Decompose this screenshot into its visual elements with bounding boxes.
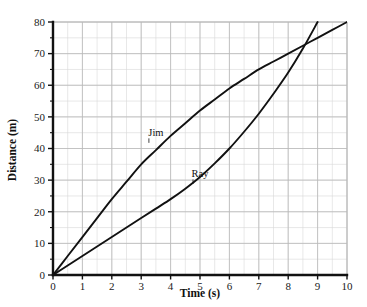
x-tick-label: 8 [285,280,291,292]
y-tick-label: 80 [34,16,46,28]
x-tick-label: 0 [50,280,56,292]
y-tick-label: 40 [34,142,46,154]
x-tick-label: 3 [138,280,144,292]
y-tick-label: 30 [34,174,46,186]
x-tick-label: 4 [168,280,174,292]
y-tick-label: 10 [34,237,46,249]
y-tick-label: 20 [34,206,46,218]
series-label-jim: Jim [148,127,163,138]
x-tick-label: 7 [256,280,262,292]
figure-container: 012345678910 01020304050607080 JimRay Ti… [0,0,367,307]
x-tick-label: 6 [227,280,233,292]
y-tick-label: 60 [34,79,46,91]
series-label-ray: Ray [192,168,210,179]
x-tick-label: 9 [315,280,321,292]
x-tick-label: 2 [109,280,115,292]
distance-time-chart: 012345678910 01020304050607080 JimRay Ti… [0,0,367,307]
x-axis-title: Time (s) [180,287,221,300]
y-tick-labels: 01020304050607080 [34,16,46,281]
y-axis-title: Distance (m) [6,119,19,181]
y-tick-label: 70 [34,47,46,59]
y-tick-label: 0 [40,269,46,281]
y-tick-label: 50 [34,111,46,123]
x-tick-label: 10 [342,280,354,292]
x-tick-label: 1 [80,280,86,292]
chart-background [0,0,367,307]
